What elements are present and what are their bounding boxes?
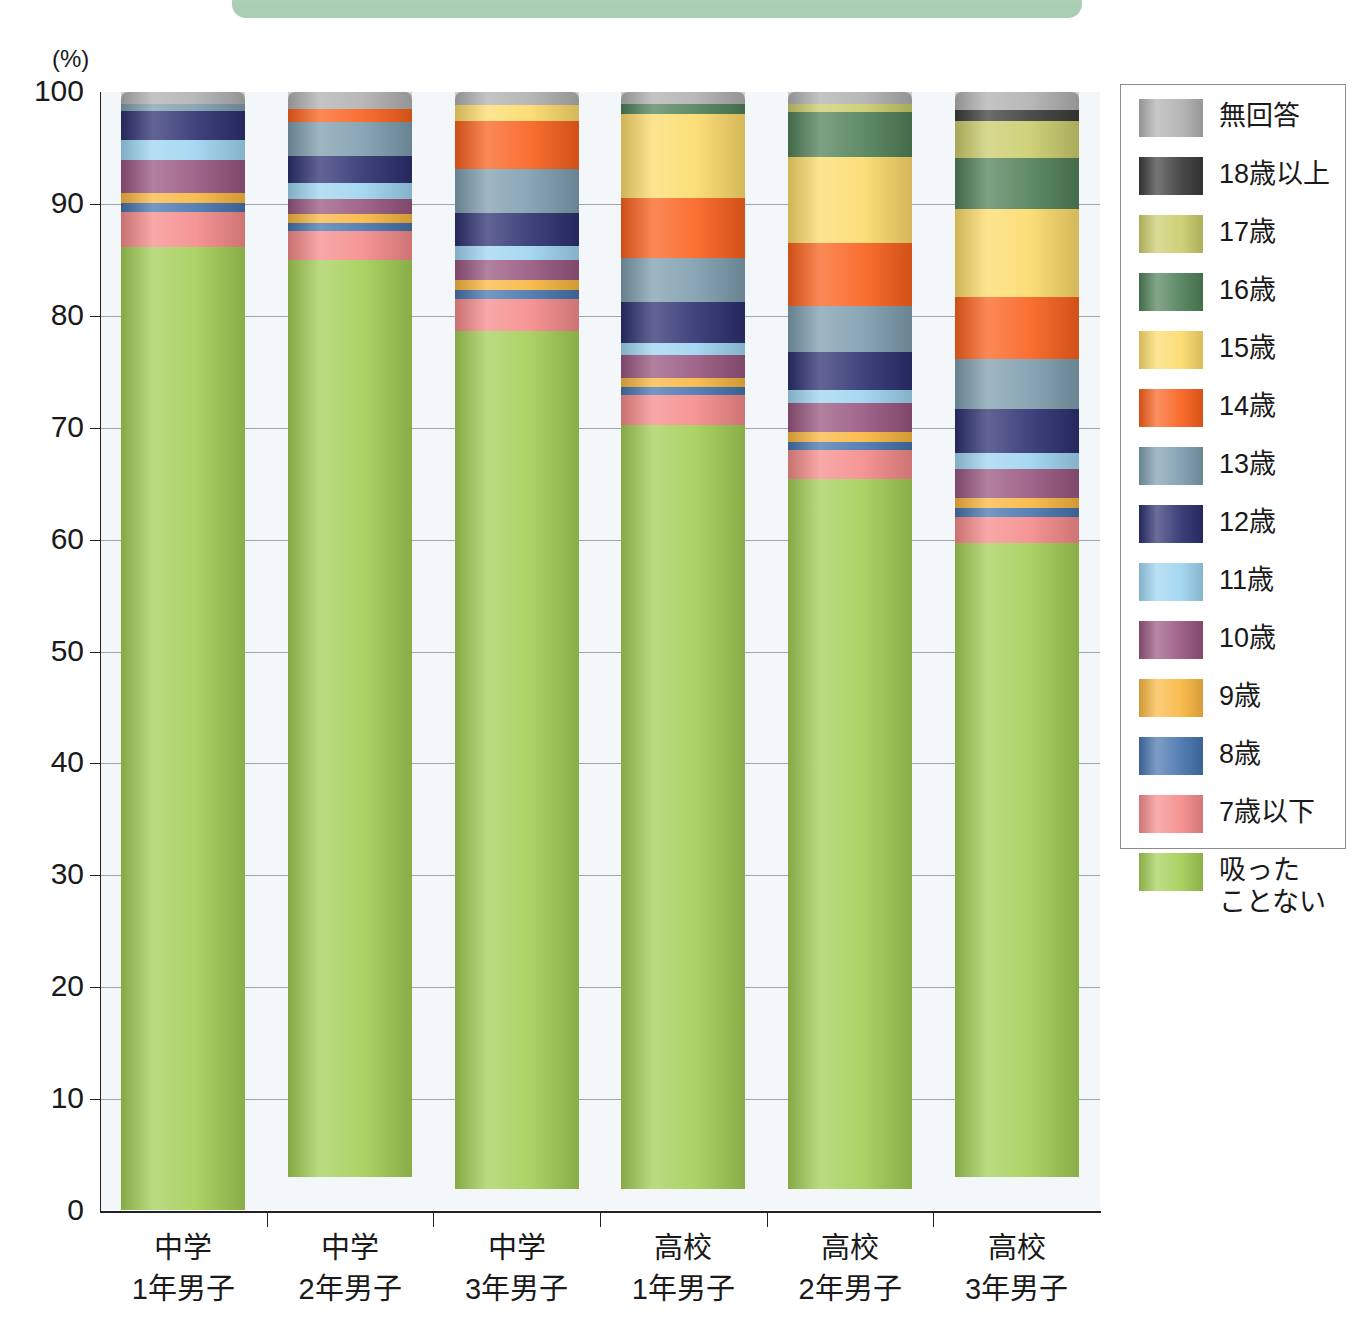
bar-segment[interactable]: [955, 409, 1079, 454]
bar-segment[interactable]: [121, 247, 245, 1210]
bar-segment[interactable]: [621, 92, 745, 104]
bar-segment[interactable]: [455, 121, 579, 169]
legend-item[interactable]: 12歳: [1139, 505, 1345, 549]
bar-segment[interactable]: [955, 469, 1079, 498]
bar-segment[interactable]: [455, 299, 579, 331]
bar-segment[interactable]: [455, 280, 579, 290]
bar-column[interactable]: [788, 92, 912, 1210]
bar-segment[interactable]: [455, 213, 579, 247]
bar-segment[interactable]: [288, 156, 412, 183]
bar-segment[interactable]: [788, 442, 912, 450]
bar-segment[interactable]: [955, 508, 1079, 517]
bar-segment[interactable]: [955, 453, 1079, 469]
legend-item[interactable]: 吸った ことない: [1139, 853, 1345, 931]
bar-segment[interactable]: [455, 290, 579, 299]
y-axis-tick-label: 10: [18, 1083, 84, 1113]
bar-segment[interactable]: [288, 223, 412, 231]
bar-segment[interactable]: [621, 114, 745, 198]
gridline: [100, 204, 1100, 205]
bar-segment[interactable]: [621, 302, 745, 342]
bar-segment[interactable]: [788, 479, 912, 1188]
legend-item[interactable]: 10歳: [1139, 621, 1345, 665]
bar-segment[interactable]: [121, 92, 245, 104]
bar-segment[interactable]: [288, 122, 412, 156]
bar-segment[interactable]: [955, 121, 1079, 158]
bar-segment[interactable]: [788, 390, 912, 403]
gridline: [100, 652, 1100, 653]
legend-item[interactable]: 8歳: [1139, 737, 1345, 781]
bar-column[interactable]: [121, 92, 245, 1210]
y-axis-tick-label: 70: [18, 412, 84, 442]
legend-item[interactable]: 無回答: [1139, 99, 1345, 143]
bar-segment[interactable]: [955, 110, 1079, 121]
legend-item-label: 13歳: [1219, 447, 1276, 481]
bar-segment[interactable]: [121, 140, 245, 160]
bar-segment[interactable]: [955, 359, 1079, 408]
bar-segment[interactable]: [288, 183, 412, 200]
bar-segment[interactable]: [621, 378, 745, 387]
legend-item[interactable]: 16歳: [1139, 273, 1345, 317]
bar-column[interactable]: [455, 92, 579, 1210]
bar-segment[interactable]: [788, 112, 912, 157]
bar-segment[interactable]: [288, 109, 412, 122]
bar-segment[interactable]: [788, 450, 912, 479]
bar-segment[interactable]: [288, 231, 412, 260]
bar-segment[interactable]: [621, 387, 745, 395]
bar-segment[interactable]: [288, 260, 412, 1178]
bar-segment[interactable]: [955, 297, 1079, 360]
bar-segment[interactable]: [955, 209, 1079, 296]
bar-segment[interactable]: [788, 352, 912, 390]
bar-segment[interactable]: [621, 198, 745, 257]
y-axis-tick: [90, 316, 101, 317]
bar-segment[interactable]: [455, 260, 579, 280]
bar-column[interactable]: [288, 92, 412, 1210]
bar-column[interactable]: [955, 92, 1079, 1210]
legend-item-label: 17歳: [1219, 215, 1276, 249]
bar-segment[interactable]: [455, 92, 579, 105]
bar-segment[interactable]: [621, 395, 745, 425]
bar-segment[interactable]: [788, 157, 912, 243]
bar-segment[interactable]: [288, 92, 412, 109]
legend-item[interactable]: 7歳以下: [1139, 795, 1345, 839]
bar-segment[interactable]: [121, 193, 245, 203]
bar-segment[interactable]: [621, 425, 745, 1188]
bar-segment[interactable]: [455, 105, 579, 121]
legend-item-label: 16歳: [1219, 273, 1276, 307]
bar-segment[interactable]: [621, 104, 745, 114]
bar-segment[interactable]: [955, 158, 1079, 209]
bar-segment[interactable]: [955, 92, 1079, 110]
bar-segment[interactable]: [955, 517, 1079, 543]
bar-segment[interactable]: [621, 355, 745, 378]
x-axis-divider: [933, 1211, 934, 1227]
bar-segment[interactable]: [288, 199, 412, 214]
legend-item[interactable]: 17歳: [1139, 215, 1345, 259]
bar-segment[interactable]: [121, 160, 245, 193]
bar-segment[interactable]: [121, 212, 245, 247]
legend-item[interactable]: 14歳: [1139, 389, 1345, 433]
bar-segment[interactable]: [621, 343, 745, 355]
bar-segment[interactable]: [455, 169, 579, 213]
bar-segment[interactable]: [788, 104, 912, 112]
bar-segment[interactable]: [621, 258, 745, 303]
legend-swatch: [1139, 99, 1203, 137]
bar-segment[interactable]: [121, 104, 245, 111]
bar-segment[interactable]: [788, 92, 912, 104]
legend-item[interactable]: 15歳: [1139, 331, 1345, 375]
legend-item[interactable]: 9歳: [1139, 679, 1345, 723]
bar-segment[interactable]: [121, 203, 245, 212]
bar-segment[interactable]: [455, 331, 579, 1188]
bar-segment[interactable]: [788, 306, 912, 352]
bar-segment[interactable]: [788, 403, 912, 432]
legend-item[interactable]: 18歳以上: [1139, 157, 1345, 201]
bar-column[interactable]: [621, 92, 745, 1210]
legend-item[interactable]: 11歳: [1139, 563, 1345, 607]
bar-segment[interactable]: [788, 432, 912, 442]
bar-segment[interactable]: [955, 543, 1079, 1177]
legend-item[interactable]: 13歳: [1139, 447, 1345, 491]
bar-segment[interactable]: [288, 214, 412, 223]
legend-swatch: [1139, 331, 1203, 369]
bar-segment[interactable]: [455, 246, 579, 259]
bar-segment[interactable]: [121, 111, 245, 140]
bar-segment[interactable]: [788, 243, 912, 306]
bar-segment[interactable]: [955, 498, 1079, 508]
